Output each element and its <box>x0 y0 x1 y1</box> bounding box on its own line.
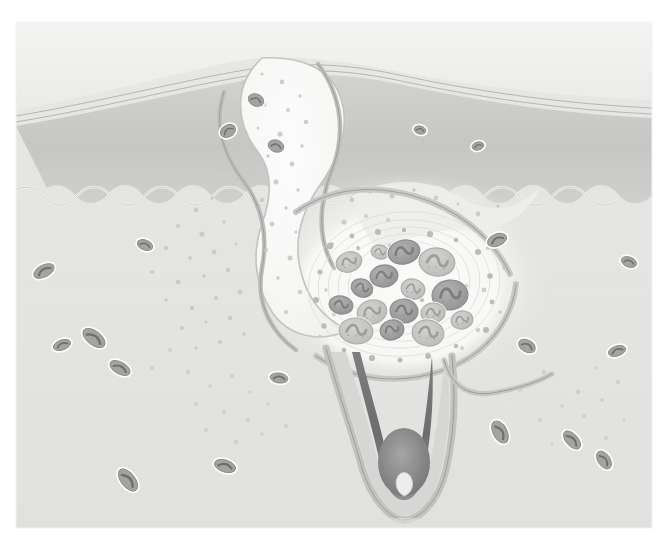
skin-illustration-svg <box>0 0 667 545</box>
bottom-edge-shade <box>16 518 652 528</box>
skin-cross-section-figure: Cross-section of skin with inflamed acne… <box>0 0 667 545</box>
